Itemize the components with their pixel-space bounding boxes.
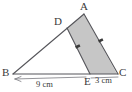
vertex-label-e: E bbox=[84, 76, 91, 87]
geometry-canvas bbox=[0, 0, 132, 92]
vertex-label-b: B bbox=[2, 67, 9, 78]
vertex-label-a: A bbox=[80, 1, 88, 12]
vertex-label-c: C bbox=[119, 67, 126, 78]
geometry-figure: A D B E C 9 cm 3 cm bbox=[0, 0, 132, 92]
segment-ab bbox=[13, 14, 84, 74]
dimension-label-be: 9 cm bbox=[36, 80, 53, 89]
parallel-mark-ac-icon bbox=[99, 39, 103, 41]
dimension-label-ec: 3 cm bbox=[95, 76, 112, 85]
vertex-label-d: D bbox=[54, 16, 62, 27]
